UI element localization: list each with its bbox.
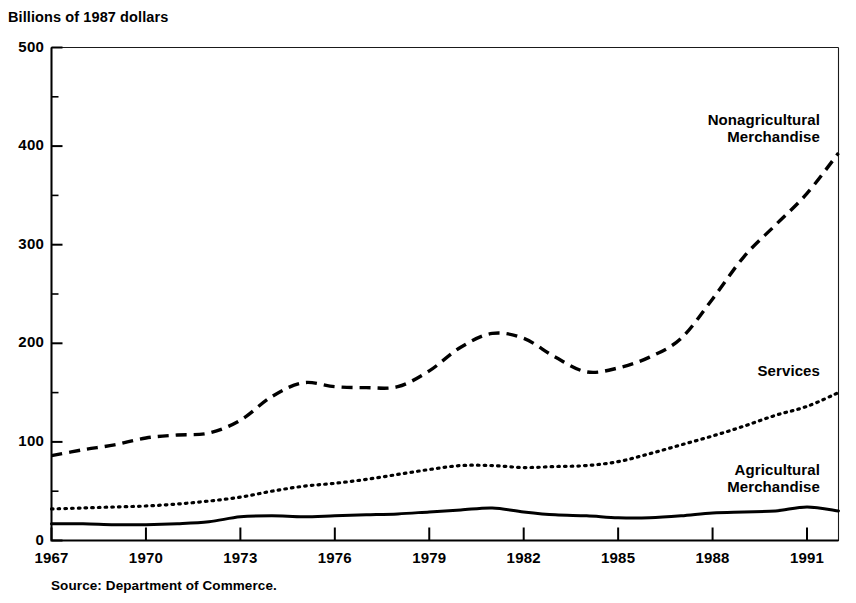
y-tick-label: 200	[0, 333, 44, 350]
y-tick-label: 0	[0, 531, 44, 548]
series-label-agricultural-merchandise: Agricultural Merchandise	[727, 462, 820, 496]
x-tick-label: 1973	[210, 549, 270, 566]
series-line-dotted	[52, 393, 839, 509]
x-tick-label: 1985	[588, 549, 648, 566]
x-tick-label: 1988	[683, 549, 743, 566]
series-label-line2: Merchandise	[708, 129, 820, 146]
series-label-line1: Services	[757, 363, 820, 380]
x-tick-label: 1991	[777, 549, 837, 566]
series-label-nonagricultural-merchandise: Nonagricultural Merchandise	[708, 112, 820, 146]
y-tick-label: 500	[0, 38, 44, 55]
series-line-dashed	[52, 153, 839, 456]
y-tick-label: 400	[0, 136, 44, 153]
x-tick-label: 1970	[116, 549, 176, 566]
series-label-services: Services	[757, 363, 820, 380]
chart-plot-area	[0, 0, 856, 603]
series-line-solid	[52, 507, 839, 525]
x-tick-label: 1967	[22, 549, 82, 566]
series-label-line1: Nonagricultural	[708, 112, 820, 129]
chart-figure: Billions of 1987 dollars Source: Departm…	[0, 0, 856, 603]
series-label-line1: Agricultural	[727, 462, 820, 479]
x-tick-label: 1976	[305, 549, 365, 566]
y-tick-label: 300	[0, 235, 44, 252]
x-tick-label: 1982	[494, 549, 554, 566]
x-tick-label: 1979	[399, 549, 459, 566]
source-note: Source: Department of Commerce.	[51, 578, 277, 593]
y-tick-label: 100	[0, 432, 44, 449]
series-label-line2: Merchandise	[727, 479, 820, 496]
